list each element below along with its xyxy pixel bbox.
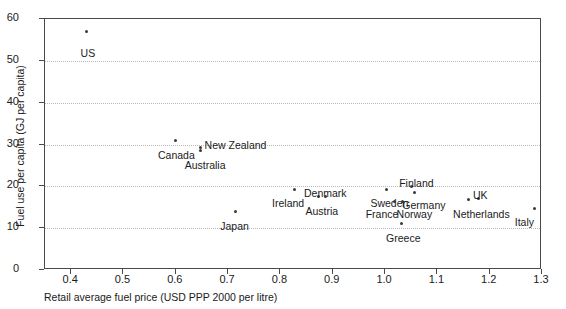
y-tick-label: 60	[0, 12, 19, 23]
x-tick-mark	[122, 269, 123, 274]
x-tick-mark	[70, 269, 71, 274]
x-tick-label: 0.7	[219, 274, 234, 285]
y-tick-mark	[39, 185, 44, 186]
y-axis: 0102030405060	[0, 0, 566, 309]
x-tick-mark	[384, 269, 385, 274]
y-tick-mark	[39, 269, 44, 270]
x-tick-label: 1.0	[376, 274, 391, 285]
x-tick-label: 0.5	[115, 274, 130, 285]
x-tick-mark	[227, 269, 228, 274]
x-tick-mark	[279, 269, 280, 274]
x-axis-title: Retail average fuel price (USD PPP 2000 …	[44, 291, 277, 303]
y-axis-title: Fuel use per capita (GJ per capita)	[14, 56, 26, 236]
y-tick-label: 0	[0, 263, 19, 274]
x-tick-mark	[175, 269, 176, 274]
x-tick-label: 0.9	[324, 274, 339, 285]
y-tick-mark	[39, 60, 44, 61]
x-tick-label: 0.6	[167, 274, 182, 285]
x-tick-mark	[541, 269, 542, 274]
x-tick-label: 1.3	[533, 274, 548, 285]
x-tick-label: 0.8	[272, 274, 287, 285]
x-tick-mark	[436, 269, 437, 274]
x-tick-label: 1.1	[429, 274, 444, 285]
y-tick-mark	[39, 102, 44, 103]
x-tick-mark	[489, 269, 490, 274]
x-tick-mark	[332, 269, 333, 274]
x-tick-label: 1.2	[481, 274, 496, 285]
y-tick-mark	[39, 144, 44, 145]
y-tick-mark	[39, 18, 44, 19]
chart-figure: USCanadaNew ZealandAustraliaJapanIreland…	[0, 0, 566, 309]
x-tick-label: 0.4	[63, 274, 78, 285]
y-tick-mark	[39, 227, 44, 228]
